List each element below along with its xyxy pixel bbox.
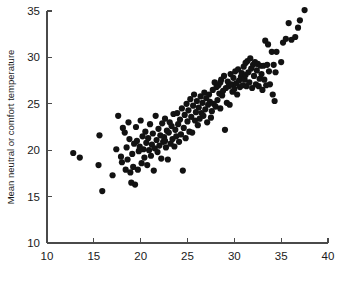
data-point — [264, 62, 270, 68]
data-point — [148, 153, 154, 159]
data-point — [227, 102, 233, 108]
data-point — [234, 91, 240, 97]
y-axis-title: Mean neutral or comfort temperature — [5, 50, 16, 205]
data-point — [127, 169, 133, 175]
plot-canvas: 10152025303540 101520253035 Mean neutral… — [0, 0, 338, 283]
data-point — [246, 79, 252, 85]
data-point — [181, 125, 187, 131]
data-point — [153, 113, 159, 119]
data-point — [177, 116, 183, 122]
data-point — [297, 17, 303, 23]
data-point — [134, 138, 140, 144]
data-point — [179, 105, 185, 111]
data-point — [141, 155, 147, 161]
data-point — [147, 121, 153, 127]
data-point — [270, 91, 276, 97]
data-point — [124, 156, 130, 162]
x-tick-label-10: 10 — [41, 250, 54, 262]
data-point — [129, 151, 135, 157]
data-point — [189, 129, 195, 135]
data-point — [222, 127, 228, 133]
data-point — [267, 81, 273, 87]
data-point — [195, 122, 201, 128]
data-point — [166, 129, 172, 135]
axes — [47, 11, 328, 243]
data-point — [139, 160, 145, 166]
x-tick-label-20: 20 — [134, 250, 147, 262]
tick-marks — [47, 11, 328, 243]
data-point — [146, 147, 152, 153]
data-point — [272, 69, 278, 75]
x-tick-label-30: 30 — [228, 250, 241, 262]
y-tick-label-10: 10 — [27, 237, 40, 249]
data-point — [165, 156, 171, 162]
data-point — [137, 146, 143, 152]
y-tick-label-35: 35 — [27, 5, 40, 17]
data-point — [135, 167, 141, 173]
data-point — [217, 105, 223, 111]
data-point — [200, 113, 206, 119]
data-point — [96, 132, 102, 138]
data-point — [258, 71, 264, 77]
data-point — [185, 107, 191, 113]
y-tick-label-30: 30 — [27, 51, 40, 63]
data-point — [180, 168, 186, 174]
data-point — [144, 162, 150, 168]
data-point — [272, 98, 278, 104]
data-point — [217, 79, 223, 85]
data-point — [150, 130, 156, 136]
data-point — [70, 150, 76, 156]
data-point — [99, 188, 105, 194]
data-point — [118, 154, 124, 160]
data-point — [113, 146, 119, 152]
data-point — [95, 162, 101, 168]
data-point — [266, 68, 272, 74]
data-point — [145, 135, 151, 141]
y-tick-label-25: 25 — [27, 98, 40, 110]
data-point — [271, 62, 277, 68]
data-point — [286, 20, 292, 26]
x-axis-tick-labels: 10152025303540 — [41, 250, 335, 262]
data-point — [174, 110, 180, 116]
data-point — [126, 136, 132, 142]
x-tick-label-35: 35 — [275, 250, 288, 262]
data-point — [142, 129, 148, 135]
data-point — [183, 135, 189, 141]
data-point — [122, 129, 128, 135]
data-point — [273, 49, 279, 55]
data-point — [77, 155, 83, 161]
data-point — [176, 139, 182, 145]
data-point — [283, 36, 289, 42]
y-axis-tick-labels: 101520253035 — [27, 5, 40, 249]
data-point — [109, 172, 115, 178]
data-point — [151, 168, 157, 174]
y-axis-label-text: Mean neutral or comfort temperature — [5, 50, 16, 205]
x-tick-label-25: 25 — [181, 250, 194, 262]
data-point — [301, 7, 307, 13]
data-point — [154, 149, 160, 155]
data-point — [214, 97, 220, 103]
data-point — [158, 155, 164, 161]
data-point — [295, 25, 301, 31]
scatter-plot-figure: 10152025303540 101520253035 Mean neutral… — [0, 0, 338, 283]
data-point — [251, 73, 257, 79]
data-point — [172, 127, 178, 133]
data-point — [292, 34, 298, 40]
data-point — [242, 60, 248, 66]
data-point — [138, 117, 144, 123]
data-point — [208, 115, 214, 121]
data-point — [230, 75, 236, 81]
data-point — [221, 73, 227, 79]
data-point — [261, 77, 267, 83]
data-point — [231, 86, 237, 92]
data-point — [171, 143, 177, 149]
data-point — [132, 181, 138, 187]
data-point — [133, 124, 139, 130]
data-points — [70, 7, 308, 194]
data-point — [119, 159, 125, 165]
data-point — [162, 138, 168, 144]
data-point — [124, 144, 130, 150]
data-point — [115, 113, 121, 119]
data-point — [191, 91, 197, 97]
y-tick-label-15: 15 — [27, 191, 40, 203]
